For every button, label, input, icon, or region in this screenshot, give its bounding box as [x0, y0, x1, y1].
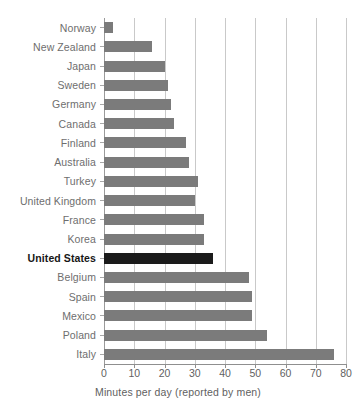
bar-turkey — [104, 176, 198, 187]
x-tick-label-30: 30 — [189, 366, 201, 380]
bar-mexico — [104, 310, 252, 321]
bar-belgium — [104, 272, 249, 283]
category-label-poland: Poland — [0, 329, 96, 341]
x-tick-label-70: 70 — [310, 366, 322, 380]
bar-row: Finland — [0, 133, 356, 152]
x-axis-tick-labels: 01020304050607080 — [0, 366, 356, 382]
bar-canada — [104, 118, 174, 129]
bar-row: France — [0, 210, 356, 229]
bar-germany — [104, 99, 171, 110]
x-tick-label-0: 0 — [101, 366, 107, 380]
bar-spain — [104, 291, 252, 302]
bar-united-states — [104, 253, 213, 264]
category-label-mexico: Mexico — [0, 310, 96, 322]
bar-row: United Kingdom — [0, 191, 356, 210]
bar-finland — [104, 137, 186, 148]
x-tick-label-10: 10 — [128, 366, 140, 380]
bar-row: Australia — [0, 153, 356, 172]
bar-korea — [104, 234, 204, 245]
bar-row: Poland — [0, 326, 356, 345]
bar-chart: NorwayNew ZealandJapanSwedenGermanyCanad… — [0, 0, 356, 417]
x-tick-label-40: 40 — [219, 366, 231, 380]
bar-row: Korea — [0, 229, 356, 248]
bar-row: Canada — [0, 114, 356, 133]
bar-australia — [104, 157, 189, 168]
bar-row: Japan — [0, 56, 356, 75]
bar-japan — [104, 61, 165, 72]
category-label-canada: Canada — [0, 118, 96, 130]
category-label-united-states: United States — [0, 252, 96, 264]
x-tick-label-60: 60 — [280, 366, 292, 380]
bar-france — [104, 214, 204, 225]
category-label-finland: Finland — [0, 137, 96, 149]
bar-poland — [104, 330, 267, 341]
category-label-germany: Germany — [0, 98, 96, 110]
bar-row: New Zealand — [0, 37, 356, 56]
category-label-new-zealand: New Zealand — [0, 41, 96, 53]
category-label-korea: Korea — [0, 233, 96, 245]
category-label-sweden: Sweden — [0, 79, 96, 91]
category-label-australia: Australia — [0, 156, 96, 168]
x-tick-label-50: 50 — [249, 366, 261, 380]
x-tick-label-80: 80 — [340, 366, 352, 380]
category-label-united-kingdom: United Kingdom — [0, 195, 96, 207]
x-tick-label-20: 20 — [159, 366, 171, 380]
category-label-italy: Italy — [0, 348, 96, 360]
bar-row: Sweden — [0, 76, 356, 95]
bar-row: Spain — [0, 287, 356, 306]
bar-row: United States — [0, 249, 356, 268]
category-label-turkey: Turkey — [0, 175, 96, 187]
bar-united-kingdom — [104, 195, 195, 206]
bar-row: Norway — [0, 18, 356, 37]
bar-rows: NorwayNew ZealandJapanSwedenGermanyCanad… — [0, 18, 356, 364]
bar-row: Belgium — [0, 268, 356, 287]
category-label-norway: Norway — [0, 22, 96, 34]
bar-italy — [104, 349, 334, 360]
bar-row: Germany — [0, 95, 356, 114]
category-label-belgium: Belgium — [0, 271, 96, 283]
bar-row: Mexico — [0, 306, 356, 325]
x-axis-title: Minutes per day (reported by men) — [0, 386, 356, 398]
bar-new-zealand — [104, 41, 152, 52]
category-label-japan: Japan — [0, 60, 96, 72]
bar-norway — [104, 22, 113, 33]
bar-row: Turkey — [0, 172, 356, 191]
bar-row: Italy — [0, 345, 356, 364]
bar-sweden — [104, 80, 168, 91]
category-label-france: France — [0, 214, 96, 226]
category-label-spain: Spain — [0, 291, 96, 303]
